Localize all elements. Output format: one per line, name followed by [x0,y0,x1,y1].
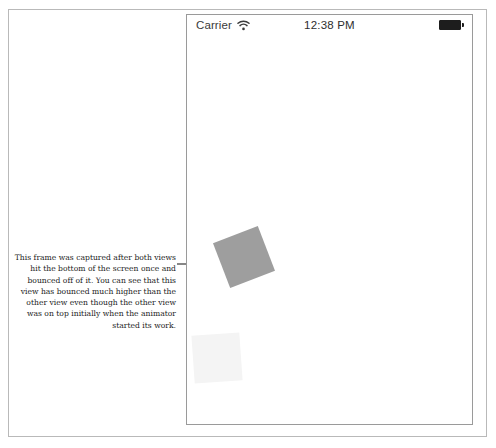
figure-caption: This frame was captured after both views… [14,252,176,331]
device-frame: Carrier 12:38 PM [186,14,473,425]
status-bar-clock: 12:38 PM [187,18,472,32]
battery-full-icon [439,20,464,30]
figure-caption-text: This frame was captured after both views… [14,252,176,331]
battery-body [439,20,461,30]
status-bar: Carrier 12:38 PM [187,15,472,37]
lower-animated-view [191,332,242,383]
battery-nub [462,23,464,27]
upper-animated-view [213,226,275,288]
